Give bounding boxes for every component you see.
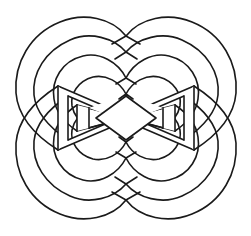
- knot-canvas: [0, 0, 251, 236]
- center-band-6-fill: [184, 86, 194, 150]
- center-band-8-fill: [77, 105, 89, 131]
- knot-diagram: Knot diagram Line drawing of a knot with…: [0, 0, 251, 236]
- center-band-9-fill: [163, 105, 175, 131]
- center-band-left-vertical: [58, 86, 68, 150]
- center-band-inner-left-vertical: [77, 105, 89, 131]
- center-band-inner-right-vertical: [163, 105, 175, 131]
- center-band-right-vertical: [184, 86, 194, 150]
- center-band-5-fill: [58, 86, 68, 150]
